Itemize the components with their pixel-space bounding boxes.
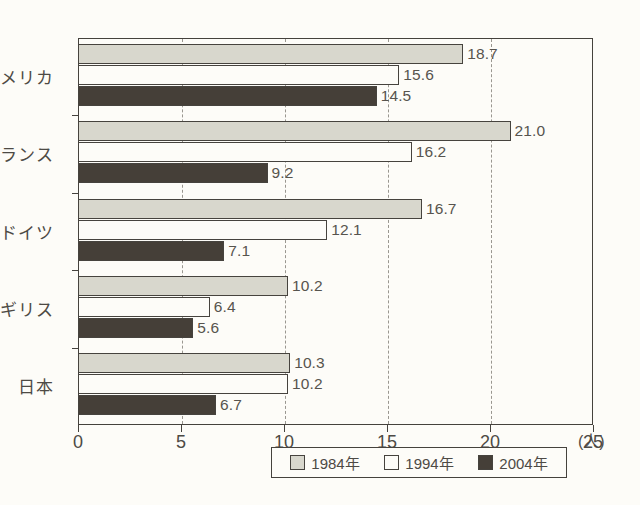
axis-tick — [490, 425, 491, 432]
bar — [78, 220, 327, 240]
bar-value-label: 10.3 — [294, 353, 325, 373]
legend-label: 1984年 — [311, 452, 359, 473]
bar-value-label: 6.7 — [220, 395, 242, 415]
chart-figure: アメリカ18.715.614.5フランス21.016.29.2ドイツ16.712… — [0, 0, 640, 505]
bar-value-label: 15.6 — [403, 65, 434, 85]
legend-swatch-icon — [290, 455, 305, 470]
bar — [78, 142, 412, 162]
bar — [78, 65, 399, 85]
legend-item: 1984年 — [290, 452, 359, 473]
bar — [78, 199, 422, 219]
bar — [78, 276, 288, 296]
bar-value-label: 12.1 — [331, 220, 362, 240]
bar — [78, 318, 193, 338]
bar — [78, 374, 288, 394]
chart-legend: 1984年1994年2004年 — [271, 447, 567, 478]
axis-tick-label: 5 — [176, 432, 186, 453]
category-label: フランス — [0, 141, 54, 166]
bar-value-label: 5.6 — [197, 318, 219, 338]
gridline — [491, 39, 492, 424]
axis-tick-label: 0 — [73, 432, 83, 453]
bar — [78, 121, 511, 141]
legend-swatch-icon — [478, 455, 493, 470]
bar — [78, 241, 224, 261]
bar-value-label: 14.5 — [381, 86, 412, 106]
axis-tick — [78, 425, 79, 432]
legend-label: 2004年 — [499, 452, 547, 473]
bar-value-label: 6.4 — [214, 297, 236, 317]
bar-value-label: 16.2 — [416, 142, 447, 162]
category-label: ドイツ — [0, 219, 54, 244]
bar — [78, 395, 216, 415]
bar-value-label: 9.2 — [272, 163, 294, 183]
bar — [78, 297, 210, 317]
category-label: 日本 — [18, 373, 54, 398]
bar-value-label: 18.7 — [467, 44, 498, 64]
axis-tick — [387, 425, 388, 432]
bar — [78, 86, 377, 106]
legend-item: 2004年 — [478, 452, 547, 473]
category-label: アメリカ — [0, 64, 54, 89]
axis-minor-tick — [72, 270, 79, 271]
bar-value-label: 16.7 — [426, 199, 457, 219]
axis-minor-tick — [72, 115, 79, 116]
bar — [78, 163, 268, 183]
bar-value-label: 10.2 — [292, 276, 323, 296]
axis-minor-tick — [72, 193, 79, 194]
bar-value-label: 7.1 — [228, 241, 250, 261]
bar — [78, 44, 463, 64]
category-label: イギリス — [0, 296, 54, 321]
axis-unit-label: (人) — [578, 428, 605, 452]
bar-value-label: 21.0 — [515, 121, 546, 141]
bar — [78, 353, 290, 373]
axis-minor-tick — [72, 348, 79, 349]
legend-swatch-icon — [384, 455, 399, 470]
legend-label: 1994年 — [405, 452, 453, 473]
axis-tick — [181, 425, 182, 432]
axis-tick — [284, 425, 285, 432]
legend-item: 1994年 — [384, 452, 453, 473]
bar-value-label: 10.2 — [292, 374, 323, 394]
